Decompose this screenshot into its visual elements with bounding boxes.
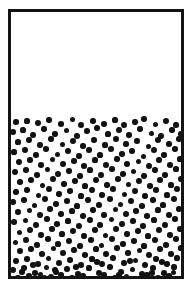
- particle: [173, 236, 179, 242]
- particle: [37, 212, 43, 218]
- particle: [110, 255, 115, 260]
- particle: [101, 121, 107, 127]
- particle: [113, 226, 119, 232]
- particle: [96, 202, 101, 207]
- particle: [157, 177, 163, 183]
- particle: [163, 242, 168, 247]
- particle: [164, 192, 169, 197]
- particle: [66, 168, 71, 173]
- particle: [26, 273, 32, 276]
- particle: [91, 137, 97, 143]
- particle: [27, 227, 33, 233]
- particle: [132, 188, 138, 194]
- particle: [103, 233, 108, 238]
- particle: [153, 122, 158, 127]
- particle: [159, 259, 165, 265]
- particle: [82, 252, 88, 258]
- particle: [119, 221, 125, 227]
- particle: [164, 261, 170, 267]
- particle: [85, 197, 91, 203]
- particle: [12, 169, 18, 175]
- particle: [153, 256, 158, 261]
- particle: [105, 131, 110, 136]
- particle: [123, 211, 129, 217]
- particle: [54, 221, 60, 227]
- particle: [99, 261, 105, 267]
- particle: [113, 136, 119, 142]
- particle: [80, 273, 85, 276]
- particle: [84, 128, 89, 133]
- particle: [42, 196, 48, 202]
- particle: [13, 119, 19, 125]
- particle: [142, 193, 147, 198]
- particle: [22, 147, 28, 153]
- particle: [60, 161, 66, 167]
- particle: [176, 206, 181, 211]
- particle: [113, 207, 118, 212]
- particle: [149, 270, 154, 275]
- particle: [93, 246, 98, 251]
- particle: [112, 117, 117, 122]
- particle: [162, 172, 168, 178]
- particle: [171, 196, 177, 202]
- particle: [147, 183, 152, 188]
- particle: [144, 213, 150, 219]
- particle: [133, 208, 138, 213]
- particle: [98, 172, 104, 178]
- particle: [156, 227, 162, 233]
- particle: [72, 178, 78, 184]
- particle: [125, 250, 131, 256]
- particle: [70, 117, 75, 122]
- particle: [134, 138, 140, 144]
- particle: [87, 217, 92, 222]
- particle: [171, 264, 176, 269]
- particle: [86, 265, 91, 270]
- particle: [24, 118, 29, 123]
- particle: [48, 274, 54, 276]
- particle: [104, 182, 109, 187]
- particle: [139, 203, 144, 208]
- particle: [118, 202, 123, 207]
- particle: [127, 258, 133, 264]
- particle: [71, 158, 76, 163]
- particle: [11, 149, 16, 154]
- particle: [30, 262, 36, 268]
- particle: [11, 199, 16, 204]
- particle: [11, 129, 16, 135]
- particle: [49, 226, 55, 232]
- particle: [140, 223, 146, 229]
- particle: [115, 176, 121, 182]
- particle: [65, 218, 70, 223]
- particle: [94, 125, 100, 131]
- particle: [38, 232, 43, 237]
- particle: [36, 193, 41, 198]
- particle: [11, 219, 17, 225]
- particle: [149, 131, 154, 136]
- particle: [174, 186, 180, 192]
- particle: [64, 266, 69, 271]
- particle: [133, 258, 138, 263]
- particle: [78, 262, 84, 268]
- particle: [167, 162, 173, 168]
- particle: [59, 231, 64, 236]
- particle: [136, 159, 141, 164]
- particle: [81, 163, 87, 169]
- particle: [11, 267, 16, 273]
- particle: [136, 178, 142, 184]
- particle: [94, 259, 100, 265]
- particle: [21, 197, 27, 203]
- particle: [126, 132, 131, 137]
- particle: [146, 144, 151, 149]
- particle: [76, 153, 81, 158]
- particle: [15, 209, 21, 215]
- particle: [33, 152, 38, 157]
- particle: [178, 245, 181, 250]
- particle: [55, 241, 60, 246]
- particle: [90, 207, 95, 212]
- particle: [131, 169, 136, 174]
- particle: [55, 152, 60, 157]
- particle: [120, 241, 125, 246]
- particle: [34, 242, 39, 247]
- particle: [107, 264, 112, 269]
- particle: [67, 188, 73, 194]
